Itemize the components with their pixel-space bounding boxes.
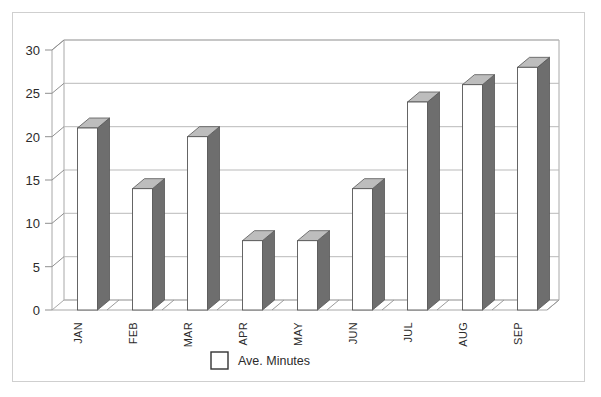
bar-may bbox=[298, 231, 330, 310]
bar-side-face bbox=[428, 92, 440, 310]
bar-front-face bbox=[133, 189, 153, 310]
x-tick bbox=[162, 300, 174, 310]
bar-sep bbox=[518, 57, 550, 310]
x-tick bbox=[217, 300, 229, 310]
bar-jul bbox=[408, 92, 440, 310]
bar-side-face bbox=[483, 75, 495, 310]
bar-jun bbox=[353, 179, 385, 310]
bar-side-face bbox=[98, 118, 110, 310]
x-axis-tick-labels: JANFEBMARAPRMAYJUNJULAUGSEP bbox=[72, 322, 524, 348]
bar-aug bbox=[463, 75, 495, 310]
bar-jan bbox=[78, 118, 110, 310]
bar-front-face bbox=[78, 128, 98, 310]
bar-side-face bbox=[208, 127, 220, 310]
x-tick bbox=[272, 300, 284, 310]
x-tick-label-apr: APR bbox=[237, 322, 249, 346]
y-axis-tick-labels: 30 25 20 15 10 5 0 bbox=[26, 43, 40, 318]
bar-front-face bbox=[463, 85, 483, 310]
x-tick bbox=[382, 300, 394, 310]
x-tick bbox=[437, 300, 449, 310]
y-tick-label: 20 bbox=[26, 130, 40, 145]
bar-feb bbox=[133, 179, 165, 310]
bar-side-face bbox=[538, 57, 550, 310]
bar-mar bbox=[188, 127, 220, 310]
bar-side-face bbox=[373, 179, 385, 310]
bar-side-face bbox=[153, 179, 165, 310]
x-tick-label-feb: FEB bbox=[127, 322, 139, 344]
bar-front-face bbox=[188, 137, 208, 310]
x-tick bbox=[107, 300, 119, 310]
bar-front-face bbox=[243, 241, 263, 310]
bar-front-face bbox=[518, 67, 538, 310]
x-tick-label-may: MAY bbox=[292, 322, 304, 346]
bar-apr bbox=[243, 231, 275, 310]
x-tick-label-jul: JUL bbox=[402, 322, 414, 342]
y-axis-ticks bbox=[45, 40, 64, 310]
y-tick-label: 30 bbox=[26, 43, 40, 58]
x-tick-label-mar: MAR bbox=[182, 322, 194, 347]
chart-page: 30 25 20 15 10 5 0 JANFEBMARAPRMAYJUNJUL… bbox=[0, 0, 601, 397]
x-tick-label-jun: JUN bbox=[347, 322, 359, 344]
x-tick bbox=[327, 300, 339, 310]
bar-side-face bbox=[318, 231, 330, 310]
chart-legend: Ave. Minutes bbox=[211, 352, 310, 369]
bar-side-face bbox=[263, 231, 275, 310]
y-tick-label: 25 bbox=[26, 86, 40, 101]
legend-label: Ave. Minutes bbox=[238, 354, 310, 368]
y-tick-label: 15 bbox=[26, 173, 40, 188]
bar-front-face bbox=[408, 102, 428, 310]
legend-swatch bbox=[211, 352, 228, 369]
x-tick bbox=[492, 300, 504, 310]
bar-front-face bbox=[353, 189, 373, 310]
x-tick-label-jan: JAN bbox=[72, 322, 84, 344]
x-tick-label-aug: AUG bbox=[457, 322, 469, 347]
bar-chart: 30 25 20 15 10 5 0 JANFEBMARAPRMAYJUNJUL… bbox=[0, 0, 601, 397]
y-tick-label: 0 bbox=[33, 303, 40, 318]
y-tick-label: 10 bbox=[26, 216, 40, 231]
x-tick bbox=[547, 300, 559, 310]
x-tick-label-sep: SEP bbox=[512, 322, 524, 345]
bar-front-face bbox=[298, 241, 318, 310]
y-tick-label: 5 bbox=[33, 260, 40, 275]
